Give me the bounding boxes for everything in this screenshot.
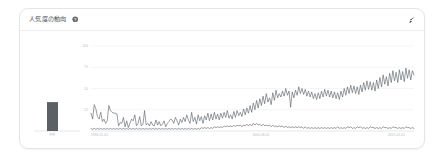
y-axis-tick-label: 75 bbox=[84, 65, 88, 69]
card-header: 人気度の動向 ? bbox=[20, 9, 424, 31]
trend-chart: 2550751001994-01-012004-08-012015-03-01平… bbox=[20, 31, 424, 149]
y-axis-tick-label: 100 bbox=[82, 44, 88, 48]
y-axis-tick-label: 25 bbox=[84, 108, 88, 112]
x-axis-tick-label: 2004-08-01 bbox=[253, 133, 270, 137]
bar bbox=[47, 102, 58, 131]
popularity-trend-card: 人気度の動向 ? 2550751001994-01-012004-08-0120… bbox=[19, 8, 425, 149]
expand-arrow-icon[interactable] bbox=[407, 15, 416, 24]
line-series bbox=[91, 123, 414, 129]
x-axis-tick-label: 1994-01-01 bbox=[91, 133, 108, 137]
help-circle-icon[interactable]: ? bbox=[72, 16, 79, 23]
page-title: 人気度の動向 bbox=[29, 16, 67, 22]
bar-category-label: 平均 bbox=[49, 132, 55, 137]
y-axis-tick-label: 50 bbox=[84, 87, 88, 91]
x-axis-tick-label: 2015-03-01 bbox=[388, 133, 405, 137]
chart-plot-region: 2550751001994-01-012004-08-012015-03-01平… bbox=[20, 31, 424, 149]
line-series bbox=[91, 68, 414, 128]
